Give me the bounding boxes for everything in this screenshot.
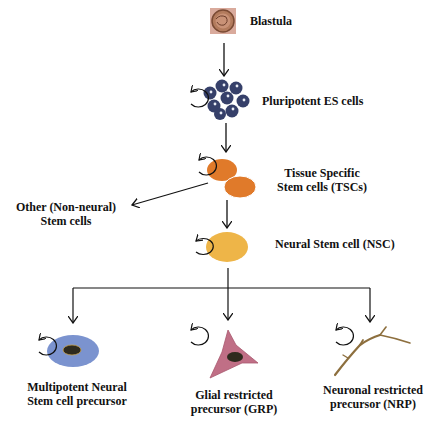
label-line: Neuronal restricted (313, 383, 433, 397)
branch-connector (73, 268, 370, 323)
label-line: Other (Non-neural) (6, 200, 126, 214)
label-line: Glial restricted (178, 388, 290, 402)
label-line: Stem cell precursor (14, 394, 140, 408)
neural-stem-cell-icon (206, 232, 248, 262)
label-tissue-specific-stem-cells: Tissue Specific Stem cells (TSCs) (266, 166, 378, 194)
label-pluripotent-es-cells: Pluripotent ES cells (262, 94, 363, 108)
label-other-non-neural-stem-cells: Other (Non-neural) Stem cells (6, 200, 126, 228)
glial-restricted-precursor-icon (210, 330, 258, 378)
label-line: precursor (NRP) (313, 397, 433, 411)
label-line: Multipotent Neural (14, 380, 140, 394)
self-renewal-icon-grp (191, 327, 208, 345)
self-renewal-icon-nrp (336, 327, 353, 345)
label-line: Tissue Specific (266, 166, 378, 180)
arrow-tsc-to-other (132, 183, 208, 205)
label-line: Stem cells (6, 214, 126, 228)
label-neural-stem-cell: Neural Stem cell (NSC) (275, 237, 395, 251)
label-blastula: Blastula (250, 14, 292, 28)
self-renewal-icon-es (191, 89, 208, 107)
label-glial-restricted-precursor: Glial restricted precursor (GRP) (178, 388, 290, 416)
label-neuronal-restricted-precursor: Neuronal restricted precursor (NRP) (313, 383, 433, 411)
neuronal-restricted-precursor-icon (335, 327, 410, 375)
label-line: Stem cells (TSCs) (266, 180, 378, 194)
pluripotent-es-cells-icon (204, 80, 250, 121)
blastula-icon (210, 8, 236, 34)
tissue-specific-stem-cells-icon (207, 159, 256, 198)
label-multipotent-neural-precursor: Multipotent Neural Stem cell precursor (14, 380, 140, 408)
label-line: precursor (GRP) (178, 402, 290, 416)
